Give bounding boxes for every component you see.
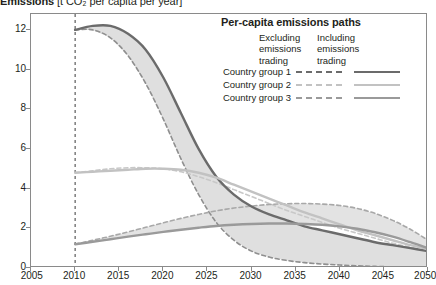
x-axis-tick-mark — [251, 267, 252, 271]
x-axis-tick-label: 2030 — [239, 270, 261, 281]
legend-swatch-including — [354, 84, 400, 86]
page-title: Emissions [t CO₂ per capita per year] — [0, 0, 182, 7]
chart-title-unit: [t CO₂ per capita per year] — [54, 0, 182, 7]
legend-swatch-including — [354, 97, 400, 99]
y-axis-tick-label: 8 — [2, 103, 26, 113]
y-axis-tick-label: 4 — [2, 183, 26, 193]
x-axis-tick-label: 2045 — [372, 270, 394, 281]
legend-rows: Country group 1Country group 2Country gr… — [203, 66, 425, 105]
x-axis-tick-label: 2010 — [63, 270, 85, 281]
y-axis-tick-label: 2 — [2, 222, 26, 232]
x-axis-tick-label: 2040 — [328, 270, 350, 281]
y-axis-tick-label: 12 — [2, 24, 26, 34]
x-axis-tick-label: 2015 — [107, 270, 129, 281]
y-axis-tick-mark — [26, 29, 30, 30]
y-axis-tick-mark — [26, 227, 30, 228]
x-axis-tick-mark — [206, 267, 207, 271]
legend-row-label: Country group 3 — [203, 92, 291, 103]
legend-column-headers: Excluding emissions trading Including em… — [259, 32, 425, 66]
x-axis-tick-label: 2005 — [21, 270, 43, 281]
legend-row-label: Country group 1 — [203, 66, 291, 77]
y-axis-tick-label: 10 — [2, 64, 26, 74]
legend-swatch-excluding — [296, 84, 342, 86]
x-axis-tick-mark — [30, 267, 31, 271]
legend-title: Per-capita emissions paths — [221, 16, 425, 28]
legend-row-label: Country group 2 — [203, 79, 291, 90]
y-axis-tick-mark — [26, 69, 30, 70]
x-axis-tick-mark — [118, 267, 119, 271]
legend-header-including: Including emissions trading — [317, 32, 375, 66]
x-axis-tick-mark — [339, 267, 340, 271]
x-axis: 2005201020152020202520302035204020452050 — [0, 270, 433, 285]
x-axis-tick-label: 2035 — [284, 270, 306, 281]
y-axis-tick-mark — [26, 188, 30, 189]
x-axis-tick-mark — [74, 267, 75, 271]
legend-row[interactable]: Country group 1 — [203, 66, 425, 79]
legend-row[interactable]: Country group 2 — [203, 79, 425, 92]
y-axis-tick-mark — [26, 148, 30, 149]
x-axis-tick-label: 2020 — [151, 270, 173, 281]
legend-header-excluding: Excluding emissions trading — [259, 32, 317, 66]
x-axis-tick-label: 2025 — [195, 270, 217, 281]
x-axis-tick-label: 2050 — [414, 270, 436, 281]
y-axis-tick-mark — [26, 108, 30, 109]
legend-swatch-including — [354, 71, 400, 73]
legend-swatch-excluding — [296, 71, 342, 73]
x-axis-tick-mark — [427, 267, 428, 271]
y-axis-tick-label: 6 — [2, 143, 26, 153]
chart-legend: Per-capita emissions paths Excluding emi… — [203, 14, 425, 105]
legend-swatch-excluding — [296, 97, 342, 99]
x-axis-tick-mark — [162, 267, 163, 271]
y-axis: 024681012 — [0, 0, 26, 285]
x-axis-tick-mark — [295, 267, 296, 271]
x-axis-tick-mark — [383, 267, 384, 271]
legend-row[interactable]: Country group 3 — [203, 92, 425, 105]
